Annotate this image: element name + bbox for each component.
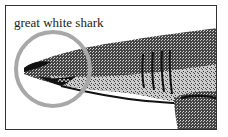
illustration-label: great white shark bbox=[14, 15, 104, 31]
illustration-frame: great white shark bbox=[5, 5, 217, 130]
